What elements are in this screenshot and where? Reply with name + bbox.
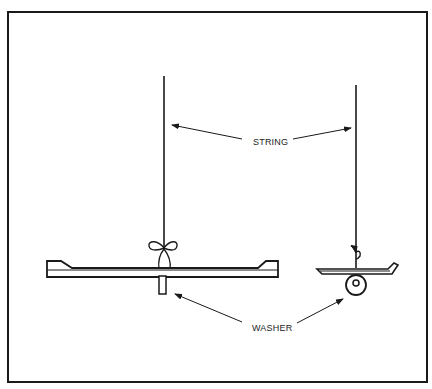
washer-callout: WASHER [175,294,343,333]
left-front-view [47,76,278,294]
left-beam [47,261,278,277]
string-arrow-right [293,128,351,139]
string-label: STRING [253,137,288,147]
right-knot-arrow [351,245,357,253]
diagram-frame [8,12,427,382]
washer-arrow-right [297,299,343,323]
right-side-view [317,85,398,295]
washer-arrow-left [175,294,242,322]
left-washer [159,276,166,294]
knot-tail-left [159,249,164,269]
bow-knot-right-loop [164,242,177,250]
diagram-canvas: STRING WASHER [0,0,432,389]
string-callout: STRING [172,125,351,147]
washer-label: WASHER [252,323,293,333]
bow-knot-left-loop [149,242,164,250]
right-washer-hole [353,280,359,286]
string-arrow-left [172,125,242,139]
knot-tail-right [164,249,170,269]
right-beam [317,263,398,274]
